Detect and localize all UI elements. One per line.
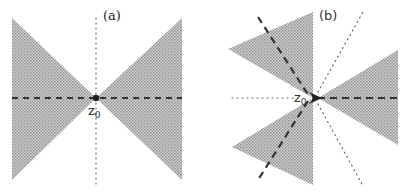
point-label-z0: z0 <box>88 103 101 120</box>
point-z0 <box>93 95 99 101</box>
point-z0-arrowhead <box>309 92 322 104</box>
panel-label-a: (a) <box>103 8 121 23</box>
panel-label-b: (b) <box>319 8 337 23</box>
figure: (a) z0 (b) z0 <box>0 0 407 192</box>
shaded-wedge-upper-left <box>228 12 313 98</box>
panel-b: (b) z0 <box>228 8 398 186</box>
panel-a: (a) z0 <box>12 8 182 186</box>
